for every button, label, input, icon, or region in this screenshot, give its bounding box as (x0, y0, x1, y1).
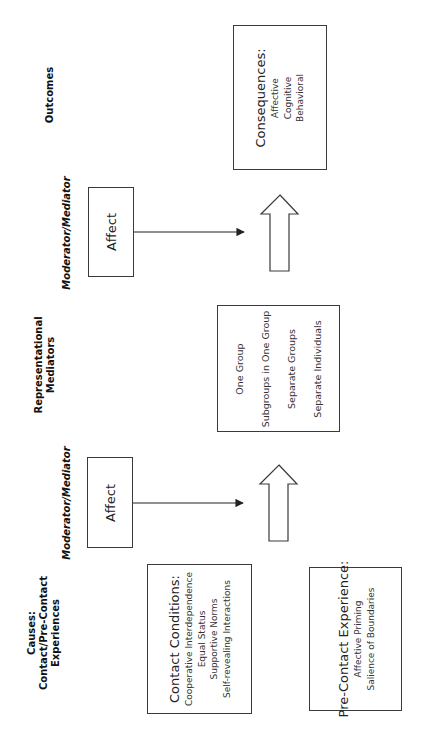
consequences-content: Consequences: Affective Cognitive Behavi… (253, 48, 307, 147)
representation-item: One Group (227, 310, 253, 427)
consequence-item: Affective (269, 48, 282, 147)
contact-condition-item: Cooperative Interdependence (183, 572, 196, 706)
pre-contact-experience-box: Pre-Contact Experience: Affective Primin… (309, 567, 402, 711)
affect-label: Affect (103, 483, 118, 521)
block-arrow-up-top (261, 195, 298, 271)
block-arrow-up-bottom (260, 465, 297, 541)
representation-item: Subgroups in One Group (253, 310, 279, 427)
contact-condition-item: Self-revealing Interactions (220, 572, 233, 706)
contact-conditions-title: Contact Conditions: (167, 572, 183, 706)
consequences-box: Consequences: Affective Cognitive Behavi… (233, 25, 327, 170)
contact-conditions-box: Contact Conditions: Cooperative Interdep… (147, 564, 252, 714)
contact-condition-item: Supportive Norms (208, 572, 221, 706)
consequences-title: Consequences: (253, 48, 269, 147)
pre-contact-item: Salience of Boundaries (364, 561, 377, 718)
affect-box-top: Affect (88, 187, 134, 277)
affect-box-bottom: Affect (87, 457, 133, 548)
representations-content: One Group Subgroups in One Group Separat… (227, 310, 331, 427)
pre-contact-title: Pre-Contact Experience: (335, 561, 351, 718)
representation-item: Separate Individuals (305, 310, 331, 427)
consequence-item: Behavioral (294, 48, 307, 147)
affect-label: Affect (104, 213, 119, 251)
pre-contact-content: Pre-Contact Experience: Affective Primin… (335, 561, 376, 718)
contact-condition-item: Equal Status (195, 572, 208, 706)
contact-conditions-content: Contact Conditions: Cooperative Interdep… (167, 572, 233, 706)
representations-box: One Group Subgroups in One Group Separat… (217, 305, 340, 432)
consequence-item: Cognitive (282, 48, 295, 147)
representation-item: Separate Groups (279, 310, 305, 427)
pre-contact-item: Affective Priming (351, 561, 364, 718)
